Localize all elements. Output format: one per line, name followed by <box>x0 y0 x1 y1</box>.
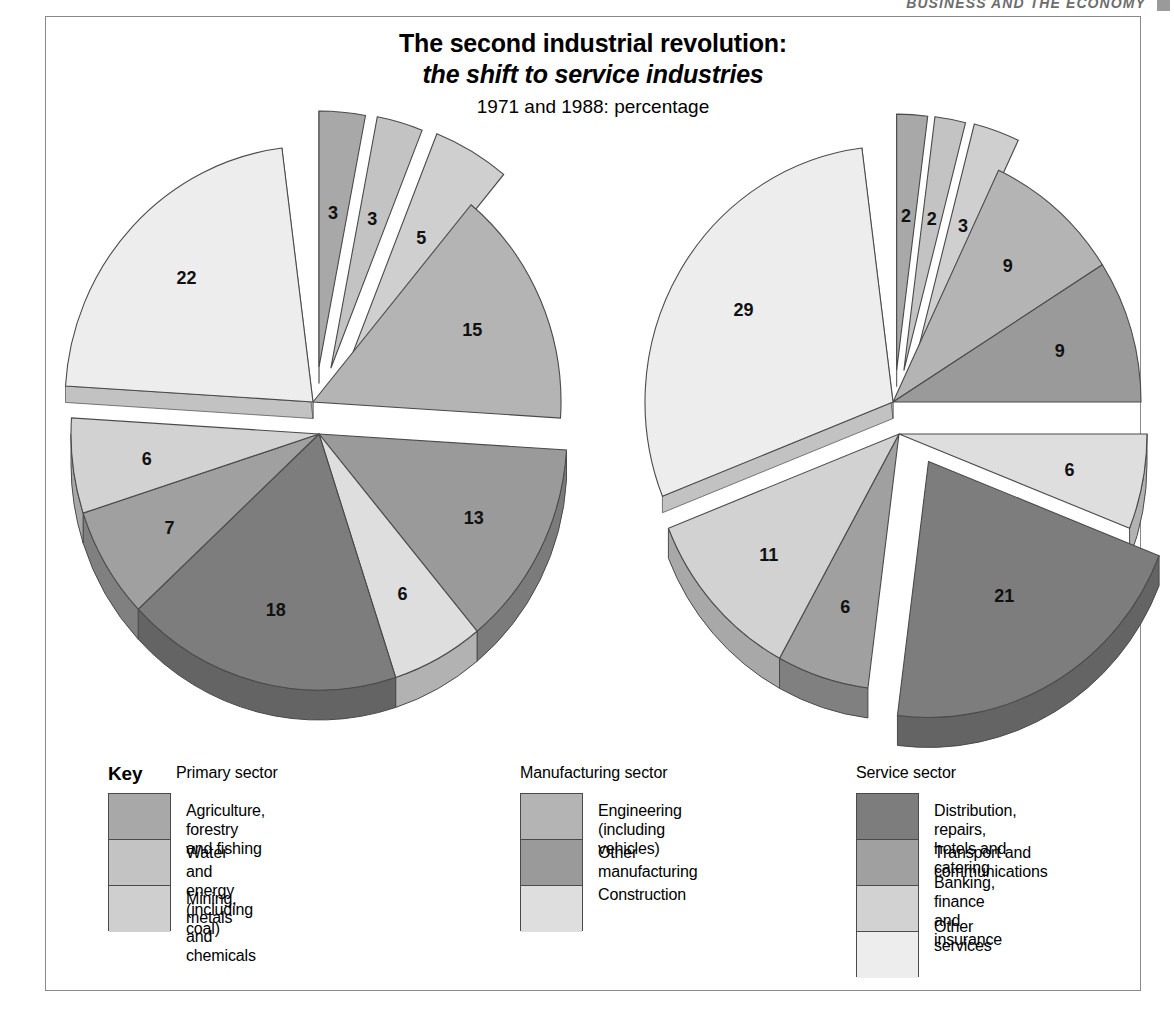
pie-value-label: 3 <box>958 216 968 236</box>
legend-swatch-service-3 <box>857 932 918 978</box>
pie-value-label: 2 <box>927 209 937 229</box>
chart-legend: Key Primary sector Agriculture, forestry… <box>108 763 1128 978</box>
pie-value-label: 5 <box>416 228 426 248</box>
legend-column-service: Service sector Distribution, repairs, ho… <box>856 763 1156 782</box>
legend-heading-service: Service sector <box>856 763 1156 782</box>
legend-column-primary: Key Primary sector Agriculture, forestry… <box>108 763 468 782</box>
pie-value-label: 6 <box>398 584 408 604</box>
legend-heading-primary: Primary sector <box>176 763 468 782</box>
legend-swatch-service-1 <box>857 840 918 886</box>
pie-value-label: 3 <box>367 209 377 229</box>
legend-swatch-primary-0 <box>109 794 170 840</box>
legend-swatches-service <box>856 793 919 977</box>
legend-swatch-service-0 <box>857 794 918 840</box>
pie-chart-1971: 33515221361876 <box>65 111 566 720</box>
pie-value-label: 7 <box>165 518 175 538</box>
legend-swatch-service-2 <box>857 886 918 932</box>
pie-chart-1988: 2239929621611 <box>645 114 1159 747</box>
pie-value-label: 21 <box>994 586 1014 606</box>
pie-value-label: 15 <box>462 320 482 340</box>
legend-label-service-3: Other services <box>934 917 991 955</box>
pie-value-label: 9 <box>1055 341 1065 361</box>
legend-swatch-manufacturing-1 <box>521 840 582 886</box>
legend-label-manufacturing-2: Construction <box>598 885 686 904</box>
legend-column-manufacturing: Manufacturing sector Engineering (includ… <box>520 763 850 782</box>
legend-swatch-manufacturing-2 <box>521 886 582 932</box>
chart-page: BUSINESS AND THE ECONOMY The second indu… <box>0 0 1174 1015</box>
legend-swatch-manufacturing-0 <box>521 794 582 840</box>
legend-heading-manufacturing: Manufacturing sector <box>520 763 850 782</box>
pie-value-label: 6 <box>142 449 152 469</box>
pie-value-label: 2 <box>901 206 911 226</box>
legend-label-primary-2: Mining, metals and chemicals <box>186 889 256 965</box>
pie-value-label: 29 <box>734 300 754 320</box>
legend-swatch-primary-1 <box>109 840 170 886</box>
pie-value-label: 13 <box>464 508 484 528</box>
pie-value-label: 11 <box>759 545 778 565</box>
pie-value-label: 3 <box>328 203 338 223</box>
pie-value-label: 18 <box>266 600 286 620</box>
pie-value-label: 6 <box>1065 460 1075 480</box>
legend-swatch-primary-2 <box>109 886 170 932</box>
pie-value-label: 22 <box>176 268 196 288</box>
pie-value-label: 9 <box>1003 256 1013 276</box>
legend-swatches-primary <box>108 793 171 931</box>
legend-swatches-manufacturing <box>520 793 583 931</box>
legend-label-manufacturing-1: Other manufacturing <box>598 843 697 881</box>
pie-value-label: 6 <box>840 597 850 617</box>
legend-key-label: Key <box>108 763 142 785</box>
